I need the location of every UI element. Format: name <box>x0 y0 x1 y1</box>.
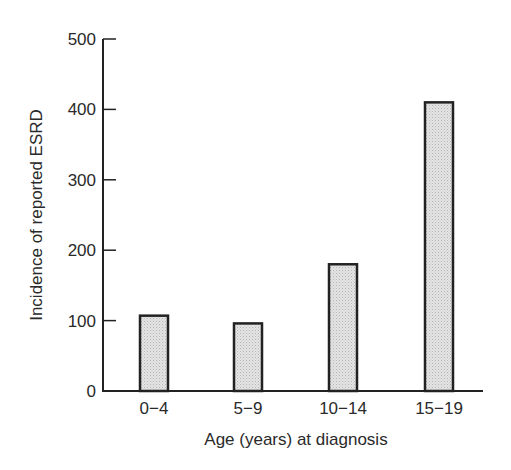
bar-10-14 <box>329 264 357 391</box>
y-axis-title: Incidence of reported ESRD <box>27 109 46 321</box>
y-tick-label: 300 <box>68 171 96 190</box>
y-tick-label: 400 <box>68 100 96 119</box>
x-axis-title: Age (years) at diagnosis <box>204 430 387 449</box>
x-tick-label: 15−19 <box>415 399 463 418</box>
bar-chart: 0100200300400500 0−45−910−1415−19 Age (y… <box>0 0 511 470</box>
bar-0-4 <box>140 316 168 391</box>
y-tick-label: 100 <box>68 312 96 331</box>
x-tick-label: 5−9 <box>234 399 263 418</box>
y-tick-label: 200 <box>68 241 96 260</box>
y-tick-label: 0 <box>87 382 96 401</box>
x-tick-label: 0−4 <box>140 399 169 418</box>
bar-5-9 <box>234 323 262 391</box>
x-tick-label: 10−14 <box>319 399 367 418</box>
y-axis: 0100200300400500 <box>68 30 116 401</box>
bar-15-19 <box>425 102 453 391</box>
y-tick-label: 500 <box>68 30 96 49</box>
x-axis: 0−45−910−1415−19 <box>102 391 483 418</box>
bars <box>140 102 453 391</box>
